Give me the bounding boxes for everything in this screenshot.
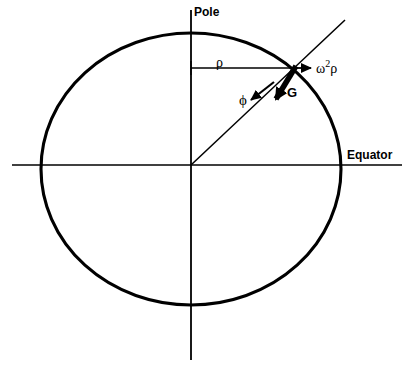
latitude-angle-label: ϕ: [239, 92, 247, 109]
centrifugal-acceleration-label: ω2ρ: [316, 58, 337, 77]
diagram-canvas: [0, 0, 412, 370]
pole-label: Pole: [194, 5, 219, 19]
equator-label: Equator: [347, 148, 392, 162]
gravitation-label: G: [287, 85, 297, 100]
omega-symbol: ω: [316, 61, 325, 76]
geoid-force-diagram: Pole Equator ρ ω2ρ G ϕ: [0, 0, 412, 370]
omega-rho-tail: ρ: [330, 61, 337, 76]
radius-vector-line: [191, 20, 345, 165]
rho-label: ρ: [216, 55, 223, 71]
